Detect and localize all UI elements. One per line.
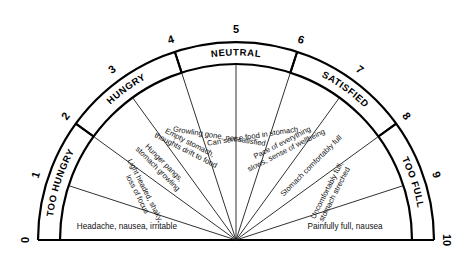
tick-number: 6 [296, 33, 306, 46]
ring-divider-neutral [175, 52, 182, 73]
ring-label-too-hungry: TOO HUNGRY [44, 147, 76, 218]
tick-8: 8 [400, 110, 413, 122]
tick-number: 8 [400, 110, 413, 122]
hunger-scale-diagram: TOO HUNGRYHUNGRYNEUTRALSATISFIEDTOO FULL… [0, 0, 471, 262]
ring-label-too-full: TOO FULL [400, 155, 427, 209]
tick-0: 0 [19, 237, 31, 243]
tick-9: 9 [430, 170, 443, 180]
ring-label-group: TOO HUNGRYHUNGRYNEUTRALSATISFIEDTOO FULL [44, 46, 427, 217]
tick-number: 0 [19, 237, 31, 243]
tick-5: 5 [233, 23, 239, 35]
ring-label-text-too-hungry: TOO HUNGRY [44, 147, 76, 218]
tick-number: 10 [441, 234, 453, 246]
wedge-label-group: Headache, nausea, irritableLight headed,… [77, 119, 383, 231]
tick-number: 1 [29, 170, 42, 180]
ring-label-text-too-full: TOO FULL [400, 155, 427, 209]
tick-4: 4 [166, 32, 176, 46]
tick-number: 3 [106, 63, 118, 76]
tick-10: 10 [441, 234, 453, 246]
tick-number: 2 [59, 110, 72, 122]
wedge-label-line: Painfully full, nausea [308, 222, 384, 231]
tick-number: 9 [430, 170, 443, 180]
tick-1: 1 [29, 170, 42, 180]
tick-3: 3 [106, 63, 118, 76]
tick-7: 7 [354, 63, 366, 76]
tick-6: 6 [296, 33, 306, 46]
ring-divider-satisfied [290, 52, 297, 73]
spoke-group [38, 64, 434, 240]
tick-number: 5 [233, 23, 239, 35]
ring-divider-too-full [378, 124, 396, 137]
ring-divider-hungry [76, 124, 94, 137]
wedge-label-line: Headache, nausea, irritable [77, 222, 178, 231]
wedge-label-w8: Uncomfortably full,stomach streched [308, 160, 352, 224]
wedge-label-w9: Painfully full, nausea [308, 222, 384, 231]
ring-label-text-neutral: NEUTRAL [210, 46, 262, 59]
tick-number: 7 [354, 63, 366, 76]
spoke-3 [133, 98, 236, 240]
hunger-scale-svg: TOO HUNGRYHUNGRYNEUTRALSATISFIEDTOO FULL… [0, 0, 471, 262]
tick-number: 4 [166, 32, 176, 46]
ring-label-neutral: NEUTRAL [210, 46, 262, 59]
wedge-label-w0: Headache, nausea, irritable [77, 222, 178, 231]
tick-2: 2 [59, 110, 72, 122]
